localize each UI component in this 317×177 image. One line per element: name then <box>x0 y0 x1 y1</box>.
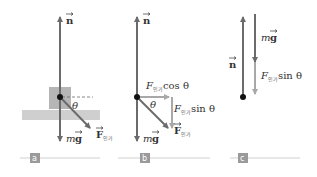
angle-label: θ <box>72 100 78 111</box>
weight-label-g: g <box>152 133 159 144</box>
center-of-mass-dot <box>134 94 140 100</box>
horizontal-func-label: cos θ <box>163 80 189 91</box>
vertical-F-subscript: 인가 <box>268 76 278 83</box>
normal-force-label: n <box>143 15 151 26</box>
free-body-diagrams: n θ m g F 인가 a n F 인가 cos θ θ F <box>0 0 317 177</box>
horizontal-F-subscript: 인가 <box>153 86 163 93</box>
angle-label: θ <box>150 99 156 110</box>
applied-force-subscript: 인가 <box>103 135 113 142</box>
vertical-F-subscript: 인가 <box>181 109 191 116</box>
center-of-mass-dot <box>57 94 63 100</box>
weight-label-g: g <box>270 32 277 43</box>
normal-force-label: n <box>229 59 237 70</box>
panel-c: m g n F 인가 sin θ c <box>229 14 302 163</box>
panel-tag-a-label: a <box>32 154 37 163</box>
vertical-func-label: sin θ <box>191 103 215 114</box>
panel-b: n F 인가 cos θ θ F 인가 sin θ m g F 인가 b <box>118 13 215 164</box>
center-of-mass-dot <box>240 94 246 100</box>
weight-label-g: g <box>75 133 82 144</box>
applied-force-subscript: 인가 <box>181 131 191 138</box>
normal-force-label: n <box>66 15 74 26</box>
panel-tag-b-label: b <box>142 154 147 163</box>
vertical-func-label: sin θ <box>278 70 302 81</box>
panel-a: n θ m g F 인가 a <box>20 13 113 164</box>
panel-tag-c-label: c <box>240 154 244 163</box>
